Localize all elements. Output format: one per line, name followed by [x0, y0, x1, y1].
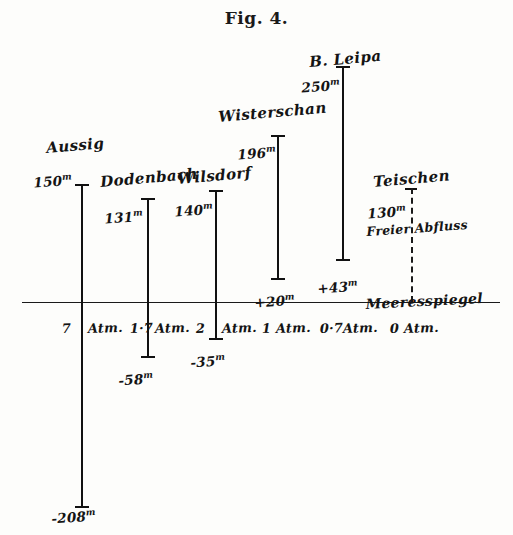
value-top-wilsdorf-unit: m	[203, 200, 213, 211]
bar-foot-dodenbach	[141, 356, 155, 358]
value-top-wisterschan-number: 196	[237, 145, 267, 163]
pressure-unit-b-leipa: Atm.	[343, 321, 378, 335]
value-top-b-leipa-number: 250	[301, 78, 331, 96]
value-top-aussig: 150m	[33, 172, 72, 190]
pressure-wisterschan: 1	[262, 322, 272, 335]
figure-4-diagram: Fig. 4. Aussig 150m -208m 7 Atm. Dodenba…	[0, 0, 513, 535]
value-top-wilsdorf: 140m	[174, 201, 213, 219]
value-top-dodenbach-unit: m	[133, 207, 143, 218]
value-bottom-wisterschan: +20m	[254, 292, 295, 310]
value-bottom-aussig: -208m	[51, 508, 96, 526]
pressure-unit-wisterschan: Atm.	[276, 321, 311, 335]
value-top-wisterschan-unit: m	[266, 143, 276, 154]
value-bottom-wilsdorf-unit: m	[215, 352, 225, 363]
station-label-wisterschan: Wisterschan	[218, 101, 328, 125]
value-top-b-leipa-unit: m	[330, 76, 340, 87]
station-label-b-leipa: B. Leipa	[309, 49, 382, 70]
pressure-b-leipa: 0·7	[320, 321, 344, 335]
pressure-aussig: 7	[62, 322, 72, 335]
sea-level-label: Meeresspiegel	[365, 291, 483, 311]
value-bottom-aussig-number: -208	[51, 508, 87, 526]
value-bottom-b-leipa: +43m	[317, 278, 358, 296]
value-bottom-b-leipa-number: +43	[317, 278, 349, 296]
value-top-teischen-unit: m	[396, 202, 406, 213]
pressure-aussig-number: 7	[62, 321, 72, 336]
pressure-unit-aussig: Atm.	[88, 321, 123, 335]
value-top-dodenbach: 131m	[104, 208, 143, 226]
pressure-b-leipa-unit: Atm.	[343, 320, 378, 336]
station-label-teischen: Teischen	[373, 168, 451, 190]
value-bottom-wilsdorf-number: -35	[190, 353, 216, 371]
bar-wilsdorf	[215, 190, 217, 340]
pressure-dodenbach: 1·7	[130, 321, 154, 335]
value-top-wilsdorf-number: 140	[174, 202, 204, 220]
bar-wisterschan	[277, 135, 279, 280]
bar-foot-b-leipa	[336, 259, 350, 261]
value-top-b-leipa: 250m	[301, 77, 340, 95]
value-top-teischen: 130m	[367, 203, 406, 221]
value-top-dodenbach-number: 131	[104, 209, 134, 227]
pressure-unit-wilsdorf: Atm.	[222, 321, 257, 335]
value-bottom-wisterschan-unit: m	[285, 291, 295, 302]
station-label-aussig: Aussig	[46, 136, 105, 156]
value-top-aussig-number: 150	[33, 173, 63, 191]
bar-teischen-dashed	[411, 188, 413, 302]
free-outflow-label: Freier Abfluss	[366, 219, 468, 239]
value-bottom-wisterschan-number: +20	[254, 292, 286, 310]
pressure-aussig-unit: Atm.	[88, 320, 123, 336]
bar-foot-wisterschan	[271, 278, 285, 280]
value-top-aussig-unit: m	[62, 171, 72, 182]
pressure-b-leipa-number: 0·7	[320, 320, 344, 336]
value-bottom-aussig-unit: m	[85, 507, 95, 518]
pressure-wisterschan-number: 1	[262, 321, 272, 336]
value-bottom-dodenbach-unit: m	[143, 370, 153, 381]
value-bottom-wilsdorf: -35m	[190, 353, 226, 370]
pressure-unit-teischen: Atm.	[404, 321, 439, 335]
pressure-teischen-unit: Atm.	[404, 320, 439, 336]
station-label-wilsdorf: Wilsdorf	[177, 166, 253, 187]
pressure-wilsdorf: 2	[196, 322, 206, 335]
value-bottom-dodenbach-number: -58	[118, 371, 144, 389]
value-top-wisterschan: 196m	[237, 144, 276, 162]
pressure-wilsdorf-unit: Atm.	[222, 320, 257, 336]
value-bottom-dodenbach: -58m	[118, 371, 154, 388]
bar-b-leipa	[342, 66, 344, 261]
pressure-dodenbach-unit: Atm.	[155, 320, 190, 336]
pressure-teischen-number: 0	[390, 321, 400, 336]
figure-caption: Fig. 4.	[0, 8, 513, 28]
pressure-unit-dodenbach: Atm.	[155, 321, 190, 335]
pressure-wisterschan-unit: Atm.	[276, 320, 311, 336]
pressure-wilsdorf-number: 2	[196, 321, 206, 336]
value-top-teischen-number: 130	[367, 204, 397, 222]
pressure-dodenbach-number: 1·7	[130, 320, 154, 336]
pressure-teischen: 0	[390, 322, 400, 335]
bar-foot-wilsdorf	[209, 338, 223, 340]
value-bottom-b-leipa-unit: m	[348, 277, 358, 288]
bar-aussig	[81, 184, 83, 508]
